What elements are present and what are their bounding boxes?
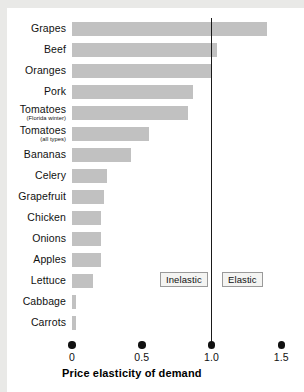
- bar-category-name: Tomatoes: [20, 125, 66, 136]
- bar-row: Celery: [0, 165, 304, 186]
- bar-category-sublabel: (all types): [40, 136, 66, 143]
- x-axis-tick-marker: [138, 341, 146, 349]
- bar-category-label: Onions: [0, 228, 66, 249]
- x-axis-tick-marker: [68, 341, 76, 349]
- bar: [72, 43, 217, 57]
- bar: [72, 211, 101, 225]
- bar-category-name: Chicken: [27, 212, 66, 223]
- bar-row: Grapes: [0, 18, 304, 39]
- x-axis-title: Price elasticity of demand: [62, 367, 202, 379]
- x-axis-tick-label: 1.5: [261, 351, 301, 363]
- bar-category-label: Grapes: [0, 18, 66, 39]
- bar: [72, 232, 101, 246]
- bar-category-name: Pork: [44, 86, 66, 97]
- x-axis-tick-marker: [278, 341, 286, 349]
- bar-category-name: Lettuce: [31, 275, 66, 286]
- bar-category-name: Grapefruit: [18, 191, 66, 202]
- bar-category-label: Oranges: [0, 60, 66, 81]
- bar-category-label: Beef: [0, 39, 66, 60]
- bar-category-label: Tomatoes(all types): [0, 123, 66, 144]
- bar: [72, 169, 107, 183]
- bar-category-name: Tomatoes: [20, 104, 66, 115]
- bar: [72, 190, 104, 204]
- bar-category-label: Pork: [0, 81, 66, 102]
- bar-row: Oranges: [0, 60, 304, 81]
- bar: [72, 22, 267, 36]
- bar-row: Tomatoes(Florida winter): [0, 102, 304, 123]
- bar-row: Pork: [0, 81, 304, 102]
- bar-row: Chicken: [0, 207, 304, 228]
- bar-category-label: Grapefruit: [0, 186, 66, 207]
- bar: [72, 106, 188, 120]
- bar-category-name: Celery: [35, 170, 66, 181]
- bar: [72, 295, 76, 309]
- bar-category-label: Celery: [0, 165, 66, 186]
- bar-row: Onions: [0, 228, 304, 249]
- bar-row: Cabbage: [0, 291, 304, 312]
- unit-elastic-reference-line: [211, 18, 212, 347]
- bar: [72, 127, 149, 141]
- x-axis-tick-label: 0: [52, 351, 92, 363]
- bar-category-name: Cabbage: [23, 296, 66, 307]
- bar: [72, 274, 93, 288]
- bar-row: Carrots: [0, 312, 304, 333]
- bar: [72, 64, 212, 78]
- bar-category-label: Cabbage: [0, 291, 66, 312]
- bar: [72, 148, 131, 162]
- bar-row: Grapefruit: [0, 186, 304, 207]
- bar-category-name: Beef: [44, 44, 66, 55]
- bar: [72, 316, 76, 330]
- bar-category-name: Onions: [32, 233, 66, 244]
- bar-row: Apples: [0, 249, 304, 270]
- bar: [72, 85, 193, 99]
- bar-category-name: Oranges: [25, 65, 66, 76]
- chart-figure: GrapesBeefOrangesPorkTomatoes(Florida wi…: [0, 0, 304, 392]
- bar-category-label: Apples: [0, 249, 66, 270]
- bar-row: Bananas: [0, 144, 304, 165]
- bar-row: Beef: [0, 39, 304, 60]
- bar-category-name: Bananas: [24, 149, 66, 160]
- legend-inelastic: Inelastic: [160, 272, 208, 287]
- bar-chart-plot-area: GrapesBeefOrangesPorkTomatoes(Florida wi…: [0, 0, 304, 392]
- bar-category-label: Bananas: [0, 144, 66, 165]
- x-axis-tick-marker: [208, 341, 216, 349]
- bar-category-label: Lettuce: [0, 270, 66, 291]
- bar-category-label: Chicken: [0, 207, 66, 228]
- x-axis-tick-label: 0.5: [122, 351, 162, 363]
- legend-elastic: Elastic: [222, 272, 263, 287]
- bar-category-name: Apples: [33, 254, 66, 265]
- bar: [72, 253, 101, 267]
- bar-category-name: Carrots: [31, 317, 66, 328]
- bar-category-name: Grapes: [31, 23, 66, 34]
- bar-category-label: Carrots: [0, 312, 66, 333]
- bar-row: Tomatoes(all types): [0, 123, 304, 144]
- x-axis-tick-label: 1.0: [192, 351, 232, 363]
- bar-category-sublabel: (Florida winter): [27, 115, 66, 122]
- bar-category-label: Tomatoes(Florida winter): [0, 102, 66, 123]
